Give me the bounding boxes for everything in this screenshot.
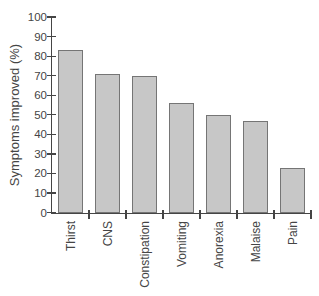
x-axis-line — [51, 213, 311, 214]
y-tick — [47, 134, 56, 135]
x-category-label-thirst: Thirst — [64, 221, 78, 251]
x-category-label-pain: Pain — [286, 221, 300, 245]
x-tick — [88, 210, 89, 219]
x-tick — [273, 210, 274, 219]
bar-constipation — [132, 76, 157, 213]
y-tick-label: 90 — [0, 30, 47, 44]
y-tick — [47, 36, 56, 37]
x-category-label-cns: CNS — [101, 221, 115, 246]
x-tick — [199, 210, 200, 219]
x-tick — [125, 210, 126, 219]
x-category-label-vomiting: Vomiting — [175, 221, 189, 267]
y-axis-line — [51, 17, 52, 214]
y-tick-label: 40 — [0, 127, 47, 141]
bar-malaise — [243, 121, 268, 213]
y-tick-label: 80 — [0, 49, 47, 63]
y-tick — [47, 75, 56, 76]
y-tick-label: 70 — [0, 69, 47, 83]
y-tick — [47, 16, 56, 17]
x-tick — [236, 210, 237, 219]
x-tick — [162, 210, 163, 219]
bar-pain — [280, 168, 305, 213]
bar-thirst — [58, 50, 83, 212]
y-tick — [47, 56, 56, 57]
y-tick — [47, 173, 56, 174]
bar-vomiting — [169, 103, 194, 213]
y-tick-label: 10 — [0, 186, 47, 200]
y-tick-label: 100 — [0, 10, 47, 24]
y-tick — [47, 114, 56, 115]
x-tick — [310, 210, 311, 219]
y-tick-label: 60 — [0, 88, 47, 102]
y-tick-label: 30 — [0, 147, 47, 161]
x-category-label-anorexia: Anorexia — [212, 221, 226, 268]
x-category-label-malaise: Malaise — [249, 221, 263, 262]
y-tick — [47, 95, 56, 96]
y-tick-label: 50 — [0, 108, 47, 122]
bar-anorexia — [206, 115, 231, 213]
x-category-label-constipation: Constipation — [138, 221, 152, 288]
y-tick — [47, 192, 56, 193]
y-tick — [47, 153, 56, 154]
bar-chart-figure: Symptoms improved (%) 010203040506070809… — [0, 0, 319, 296]
y-tick — [47, 212, 56, 213]
bar-cns — [95, 74, 120, 213]
y-tick-label: 0 — [0, 206, 47, 220]
y-tick-label: 20 — [0, 166, 47, 180]
